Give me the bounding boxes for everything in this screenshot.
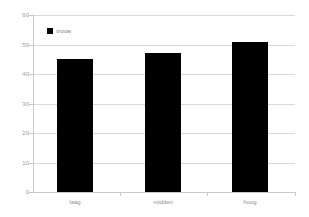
y-axis-label: 30 (22, 101, 29, 107)
y-axis-tick (29, 133, 33, 134)
gridline (33, 15, 295, 16)
x-axis-line (33, 192, 295, 193)
y-axis-tick (29, 45, 33, 46)
bar-hoog (232, 42, 268, 192)
y-axis-tick (29, 15, 33, 16)
y-axis-tick (29, 163, 33, 164)
y-axis-label: 40 (22, 71, 29, 77)
x-axis-tick (207, 192, 208, 196)
y-axis-label: 50 (22, 42, 29, 48)
x-axis-label-laag: laag (69, 199, 80, 206)
x-axis-label-midden: midden (153, 199, 173, 206)
y-axis-label: 20 (22, 130, 29, 136)
plot-area (33, 15, 295, 192)
bar-laag (57, 59, 93, 192)
x-axis-tick (295, 192, 296, 196)
y-axis-label: 0 (26, 189, 29, 195)
bar-chart: 60 50 40 30 20 10 0 laag midden hoog vro… (0, 0, 309, 217)
bar-midden (145, 53, 181, 192)
y-axis-label: 10 (22, 160, 29, 166)
y-axis-line (33, 15, 34, 193)
legend-label: vrouw (56, 28, 71, 34)
x-axis-label-hoog: hoog (243, 199, 256, 206)
y-axis-tick (29, 104, 33, 105)
legend: vrouw (47, 28, 71, 34)
y-axis-tick (29, 192, 33, 193)
y-axis-tick (29, 74, 33, 75)
legend-swatch-icon (47, 28, 53, 34)
x-axis-tick (120, 192, 121, 196)
y-axis-label: 60 (22, 12, 29, 18)
